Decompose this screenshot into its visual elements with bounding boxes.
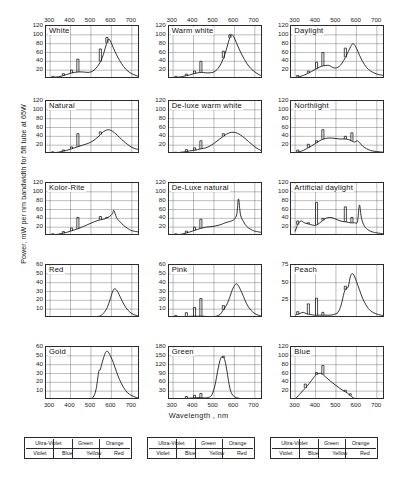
legend-band-label: Violet	[273, 449, 298, 458]
y-tick-label: 60	[148, 206, 166, 212]
x-tick-label: 300	[284, 17, 304, 23]
y-tick-label: 60	[270, 124, 288, 130]
y-tick-label: 150	[148, 352, 166, 358]
legend-band-label: Ultra-Violet	[273, 439, 315, 448]
y-tick-label: 40	[270, 132, 288, 138]
y-tick-label: 100	[148, 106, 166, 112]
x-tick-label: 500	[325, 17, 345, 23]
y-tick-label: 80	[148, 197, 166, 203]
y-tick-label: 100	[270, 31, 288, 37]
y-tick-label: 30	[25, 288, 43, 294]
y-tick-label: 60	[270, 370, 288, 376]
panel-title: Pink	[171, 266, 189, 274]
legend-band-label: Green	[195, 439, 223, 448]
y-tick-label: 60	[25, 124, 43, 130]
y-tick-label: 60	[148, 261, 166, 267]
y-tick-label: 80	[148, 115, 166, 121]
chart-cell-artificial-daylight: Artificial daylight20406080100120	[269, 172, 392, 254]
colour-band-legend: Ultra-VioletGreenOrangeVioletBlueYellowR…	[24, 437, 132, 459]
chart-row: Red102030405060Pink102030405060Peach2550…	[24, 254, 392, 336]
y-tick-label: 40	[148, 214, 166, 220]
legend-top-row: Ultra-VioletGreenOrange	[148, 439, 254, 449]
panel-title: De-Luxe natural	[171, 184, 230, 192]
chart-cell-de-luxe-natural: De-Luxe natural20406080100120	[147, 172, 270, 254]
y-tick-label: 60	[25, 261, 43, 267]
y-tick-label: 40	[25, 132, 43, 138]
y-tick-label: 80	[25, 40, 43, 46]
chart-row: Natural20406080100120De-luxe warm white2…	[24, 90, 392, 172]
panel-title: Green	[171, 348, 195, 356]
y-tick-label: 60	[25, 343, 43, 349]
panel-title: Peach	[293, 266, 318, 274]
y-tick-label: 100	[270, 106, 288, 112]
y-tick-label: 20	[270, 66, 288, 72]
x-tick-label: 500	[80, 17, 100, 23]
x-tick-label: 400	[60, 17, 80, 23]
x-tick-label: 500	[203, 17, 223, 23]
legend-band-label: Ultra-Violet	[150, 439, 192, 448]
y-tick-label: 40	[25, 279, 43, 285]
legend-band-label: Blue	[301, 449, 326, 458]
y-tick-label: 60	[148, 124, 166, 130]
x-tick-label: 300	[39, 17, 59, 23]
x-axis-label: Wavelength , nm	[0, 411, 397, 420]
y-tick-label: 20	[25, 141, 43, 147]
y-tick-label: 30	[25, 370, 43, 376]
legend-bottom-row: VioletBlueYellowRed	[148, 449, 254, 459]
legend-band-label: Red	[231, 449, 253, 458]
legend-band-label: Green	[318, 439, 346, 448]
chart-cell-warm-white: Warm white20406080100120300400500600700	[147, 8, 270, 90]
y-tick-label: 50	[270, 279, 288, 285]
y-tick-label: 80	[270, 40, 288, 46]
y-tick-label: 10	[25, 305, 43, 311]
y-tick-label: 120	[148, 179, 166, 185]
x-tick-label: 600	[223, 402, 243, 408]
y-tick-label: 100	[270, 352, 288, 358]
legend-band-label: Red	[108, 449, 130, 458]
y-tick-label: 120	[270, 179, 288, 185]
legend-band-label: Yellow	[203, 449, 231, 458]
legend-band-label: Orange	[222, 439, 253, 448]
y-tick-label: 100	[270, 188, 288, 194]
x-tick-label: 600	[100, 17, 120, 23]
y-tick-label: 75	[270, 261, 288, 267]
legend-bottom-row: VioletBlueYellowRed	[25, 449, 131, 459]
colour-band-legend: Ultra-VioletGreenOrangeVioletBlueYellowR…	[147, 437, 255, 459]
x-tick-label: 400	[305, 17, 325, 23]
x-tick-label: 600	[223, 17, 243, 23]
y-tick-label: 120	[270, 97, 288, 103]
chart-row: Gold102030405060300400500600700Green3060…	[24, 336, 392, 418]
y-tick-label: 20	[25, 378, 43, 384]
chart-cell-gold: Gold102030405060300400500600700	[24, 336, 147, 418]
panel-title: Kolor-Rite	[48, 184, 86, 192]
x-tick-label: 400	[182, 17, 202, 23]
y-tick-label: 40	[270, 57, 288, 63]
y-tick-label: 80	[270, 197, 288, 203]
chart-cell-natural: Natural20406080100120	[24, 90, 147, 172]
y-tick-label: 80	[270, 361, 288, 367]
y-tick-label: 20	[25, 223, 43, 229]
y-tick-label: 80	[270, 115, 288, 121]
x-tick-label: 400	[305, 402, 325, 408]
x-tick-label: 500	[80, 402, 100, 408]
x-tick-label: 700	[121, 402, 141, 408]
y-tick-label: 30	[148, 387, 166, 393]
x-tick-label: 300	[162, 17, 182, 23]
chart-cell-red: Red102030405060	[24, 254, 147, 336]
chart-cell-green: Green306090120150180300400500600700	[147, 336, 270, 418]
y-tick-label: 20	[270, 223, 288, 229]
legend-band-label: Yellow	[80, 449, 108, 458]
y-tick-label: 90	[148, 370, 166, 376]
chart-cell-de-luxe-warm-white: De-luxe warm white20406080100120	[147, 90, 270, 172]
panel-title: De-luxe warm white	[171, 102, 243, 110]
y-tick-label: 60	[148, 378, 166, 384]
x-tick-label: 700	[366, 17, 386, 23]
y-tick-label: 60	[148, 49, 166, 55]
legend-band-label: Ultra-Violet	[27, 439, 69, 448]
y-tick-label: 60	[25, 206, 43, 212]
y-tick-label: 80	[148, 40, 166, 46]
y-tick-label: 50	[25, 270, 43, 276]
y-tick-label: 20	[270, 387, 288, 393]
y-tick-label: 120	[25, 179, 43, 185]
y-tick-label: 20	[270, 141, 288, 147]
